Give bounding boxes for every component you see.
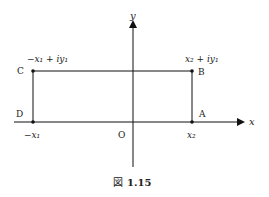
origin-label: O xyxy=(118,130,125,140)
point-b-label: B xyxy=(198,67,205,77)
point-b-expr: x₂ + iy₁ xyxy=(185,54,219,64)
point-a-dot xyxy=(190,120,194,124)
x-tick-right: x₂ xyxy=(187,130,196,140)
x-tick-left: −x₁ xyxy=(24,130,40,140)
point-c-label: C xyxy=(17,66,24,76)
point-d-label: D xyxy=(16,109,23,119)
point-d-dot xyxy=(31,120,35,124)
figure-caption-prefix: 図 xyxy=(113,177,123,188)
point-c-expr: −x₁ + iy₁ xyxy=(27,54,68,64)
figure-canvas: y x O C B D A −x₁ + iy₁ x₂ + iy₁ −x₁ x₂ … xyxy=(0,0,269,197)
x-axis-label: x xyxy=(249,116,255,127)
y-axis-label: y xyxy=(129,10,136,21)
figure-caption-number: 1.15 xyxy=(127,177,151,188)
point-c-dot xyxy=(31,69,35,73)
point-a-label: A xyxy=(198,109,206,119)
point-b-dot xyxy=(190,69,194,73)
